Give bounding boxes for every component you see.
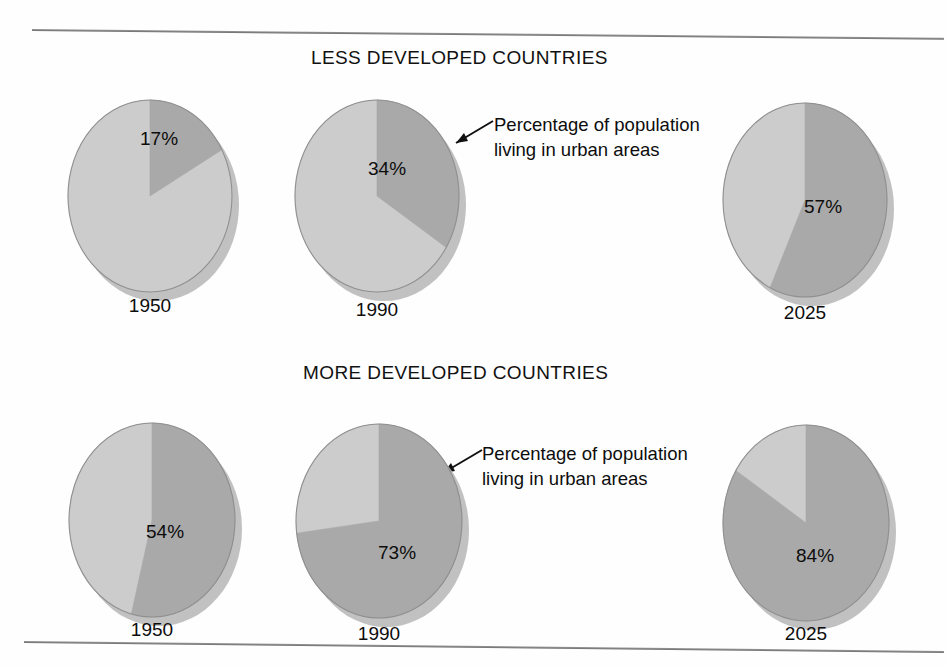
pie-chart-more-1990 [287,416,475,632]
annotation-top: Percentage of population living in urban… [494,112,709,162]
top-divider-rule [32,29,944,40]
pie-value-label: 84% [796,545,834,567]
pie-value-label: 54% [146,521,184,543]
pie-chart-more-2025 [714,417,902,635]
pie-year-label: 1950 [110,295,190,317]
pie-body [59,92,245,306]
pie-chart-less-1990 [286,92,472,306]
section-title-more-developed: MORE DEVELOPED COUNTRIES [303,362,608,384]
pie-slices [59,92,245,306]
figure-canvas: LESS DEVELOPED COUNTRIES MORE DEVELOPED … [0,0,947,666]
pie-year-label: 2025 [765,302,845,324]
pie-slices [287,416,475,632]
pie-year-label: 1990 [337,299,417,321]
pie-year-label: 1950 [112,619,192,641]
annotation-bottom: Percentage of population living in urban… [482,441,697,491]
pie-slices [286,92,472,306]
section-title-less-developed: LESS DEVELOPED COUNTRIES [311,47,608,69]
pie-year-label: 1990 [339,623,419,645]
pie-value-label: 57% [804,196,842,218]
pie-slices [714,417,902,635]
pie-body [287,416,475,632]
pie-value-label: 34% [368,158,406,180]
pie-body [714,417,902,635]
pie-body [286,92,472,306]
pie-year-label: 2025 [766,623,846,645]
pie-slice-rural [296,424,379,533]
pie-value-label: 73% [378,542,416,564]
pie-value-label: 17% [140,128,178,150]
pie-chart-less-1950 [59,92,245,306]
